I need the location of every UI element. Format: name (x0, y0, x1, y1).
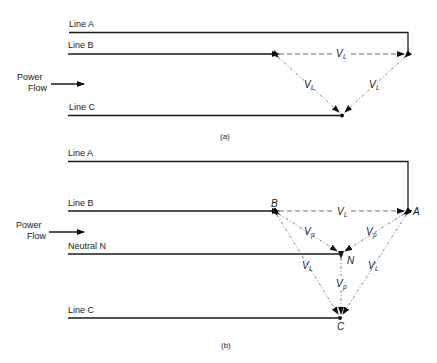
svg-text:p: p (342, 283, 347, 291)
svg-text:L: L (309, 265, 313, 272)
vp-label-an: V p (366, 226, 377, 239)
node-a (406, 52, 410, 56)
node-n (339, 252, 343, 256)
power-flow-label-2: Flow (28, 83, 48, 93)
svg-text:p: p (310, 231, 315, 239)
svg-text:L: L (344, 211, 348, 218)
vp-label-bn: V p (304, 226, 315, 239)
line-a-wire (69, 33, 408, 55)
power-flow-label-1: Power (16, 220, 42, 230)
vl-label-ba: V L (335, 203, 349, 218)
point-b-label: B (271, 198, 278, 209)
point-c-label: C (337, 321, 345, 332)
line-c-label: Line C (69, 102, 96, 112)
svg-text:L: L (311, 84, 315, 91)
caption-b: (b) (221, 341, 231, 350)
line-b-label: Line B (68, 198, 94, 208)
diagram-b: Line A Line B Neutral N Line C Power Flo… (16, 148, 420, 350)
line-a-label: Line A (68, 148, 93, 158)
diagram-a: Line A Line B Line C Power Flow V L V L … (17, 19, 410, 141)
node-a (406, 209, 410, 213)
vp-label-nc: V p (335, 276, 349, 291)
line-a-wire (68, 162, 408, 212)
vl-label-ba: V L (334, 46, 348, 60)
svg-text:p: p (372, 231, 377, 239)
vl-label-bc: V L (304, 79, 315, 91)
point-a-label: A (412, 206, 420, 217)
vl-label-ac: V L (368, 260, 379, 272)
neutral-label: Neutral N (68, 241, 106, 251)
node-b (273, 52, 277, 56)
power-flow-label-2: Flow (27, 231, 47, 241)
three-phase-diagram: Line A Line B Line C Power Flow V L V L … (0, 0, 437, 363)
point-n-label: N (347, 255, 355, 266)
svg-text:L: L (376, 84, 380, 91)
line-b-label: Line B (68, 40, 94, 50)
svg-text:L: L (375, 265, 379, 272)
line-a-label: Line A (69, 19, 94, 29)
vl-label-ac: V L (369, 79, 380, 91)
vl-label-bc: V L (302, 260, 313, 272)
caption-a: (a) (220, 132, 230, 141)
node-b (273, 209, 277, 213)
node-c (338, 316, 342, 320)
node-c (340, 114, 344, 118)
power-flow-label-1: Power (17, 72, 43, 82)
line-c-label: Line C (68, 305, 95, 315)
svg-text:L: L (343, 53, 347, 60)
